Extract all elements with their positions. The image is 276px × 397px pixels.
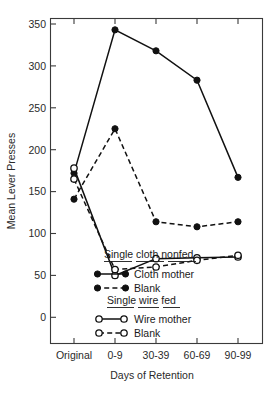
data-point <box>71 196 77 202</box>
legend-label-wire-mother: Wire mother <box>134 313 192 325</box>
data-point <box>153 48 159 54</box>
chart-legend: Single cloth nonfed Cloth mother Blank S… <box>94 248 196 339</box>
data-point <box>194 224 200 230</box>
data-point <box>235 174 241 180</box>
legend-item-wire-blank: Blank <box>96 327 161 339</box>
x-tick-label-90-99: 90-99 <box>225 349 252 361</box>
legend-item-cloth-blank: Blank <box>94 282 161 294</box>
data-point <box>235 252 241 258</box>
data-point <box>112 27 118 33</box>
data-point <box>194 257 200 263</box>
legend-group-heading-cloth: Single cloth nonfed <box>104 248 193 260</box>
y-tick-label-0: 0 <box>40 311 46 323</box>
y-tick-label-150: 150 <box>28 185 46 197</box>
x-axis-title: Days of Retention <box>110 369 194 381</box>
legend-label-cloth-blank: Blank <box>134 282 161 294</box>
data-point <box>112 266 118 272</box>
data-point <box>112 126 118 132</box>
series-layer <box>71 27 241 279</box>
data-point <box>235 219 241 225</box>
x-tick-label-60-69: 60-69 <box>184 349 211 361</box>
x-tick-label-original: Original <box>56 349 92 361</box>
y-tick-label-200: 200 <box>28 144 46 156</box>
series-blank-1 <box>71 126 241 230</box>
line-chart: 350 300 250 200 150 100 50 0 Mean Lever … <box>0 0 276 397</box>
y-tick-label-300: 300 <box>28 60 46 72</box>
legend-item-cloth-mother: Cloth mother <box>94 268 194 280</box>
y-tick-label-350: 350 <box>28 18 46 30</box>
y-tick-label-250: 250 <box>28 102 46 114</box>
figure-container: 350 300 250 200 150 100 50 0 Mean Lever … <box>0 0 276 397</box>
legend-group-heading-wire: Single wire fed <box>107 294 176 306</box>
data-point <box>194 77 200 83</box>
y-axis-ticks <box>51 24 57 317</box>
legend-label-cloth-mother: Cloth mother <box>134 268 195 280</box>
series-path <box>74 129 238 227</box>
y-tick-label-50: 50 <box>34 269 46 281</box>
x-tick-label-0-9: 0-9 <box>107 349 122 361</box>
legend-item-wire-mother: Wire mother <box>96 313 192 325</box>
data-point <box>153 219 159 225</box>
series-cloth-mother-0 <box>71 27 241 181</box>
y-axis-title: Mean Lever Presses <box>5 133 17 229</box>
data-point <box>71 165 77 171</box>
data-point <box>71 176 77 182</box>
x-tick-label-30-39: 30-39 <box>143 349 170 361</box>
legend-label-wire-blank: Blank <box>134 327 161 339</box>
y-tick-label-100: 100 <box>28 227 46 239</box>
